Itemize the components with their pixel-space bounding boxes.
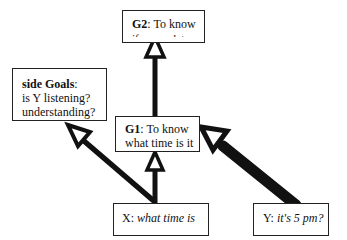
goal-g1-box: G1: To know what time is it — [115, 116, 200, 152]
goal-g2-box: G2: To know if we are late — [122, 10, 205, 43]
goal-g2-line2: if we are late — [132, 31, 204, 37]
goal-g2-text: : To know — [147, 17, 195, 31]
side-goals-line4: willing? — [22, 119, 106, 121]
speaker-x: X — [122, 211, 131, 225]
goal-g1-line2: what time is it — [125, 136, 199, 150]
side-goals-colon: : — [74, 77, 77, 91]
utterance-y-box: Y: it's 5 pm? — [253, 203, 329, 236]
goal-g1-id: G1 — [125, 122, 140, 136]
arrow-y-to-g1 — [201, 127, 296, 205]
utterance-y-text: it's 5 pm? — [277, 211, 324, 225]
arrow-g1-to-g2 — [146, 37, 164, 116]
side-goals-line3: understanding? — [22, 105, 106, 119]
utterance-x-box: X: what time is — [113, 203, 209, 236]
speaker-y: Y — [263, 211, 271, 225]
side-goals-title: side Goals — [22, 77, 74, 91]
goal-g1-text: : To know — [140, 122, 188, 136]
utterance-x-text: what time is — [137, 211, 195, 225]
arrow-x-to-g1 — [147, 152, 163, 203]
side-goals-line2: is Y listening? — [22, 91, 106, 105]
goal-g2-id: G2 — [132, 17, 147, 31]
side-goals-box: side Goals: is Y listening? understandin… — [12, 68, 107, 121]
